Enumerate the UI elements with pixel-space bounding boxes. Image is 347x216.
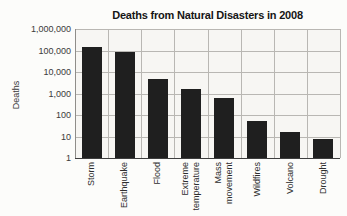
gridline-vertical [174,29,175,158]
y-tick-label-1: 1 [0,153,71,163]
y-tick-label-100-000: 100,000 [0,46,71,56]
gridline-vertical [241,29,242,158]
x-tick-label-flood: Flood [152,162,163,185]
y-tick-label-10-000: 10,000 [0,67,71,77]
gridline-vertical [307,29,308,158]
bar-extreme-temperature [181,89,201,158]
bar-drought [313,139,333,158]
y-axis-line [75,29,76,158]
x-tick-label-drought: Drought [318,162,329,194]
gridline-vertical [108,29,109,158]
bar-storm [82,47,102,158]
gridline-vertical [208,29,209,158]
gridline-vertical [274,29,275,158]
x-tick-label-extreme-temperature: Extreme temperature [180,162,202,211]
gridline-vertical [141,29,142,158]
bar-earthquake [115,52,135,158]
x-axis-line [75,158,340,159]
chart: Deaths from Natural Disasters in 2008 De… [0,0,347,216]
x-tick-label-earthquake: Earthquake [119,162,130,208]
y-tick-label-1-000: 1,000 [0,89,71,99]
x-tick-label-wildfires: Wildfires [252,162,263,197]
x-tick-label-mass-movement: Mass movement [213,162,235,204]
bar-mass-movement [214,98,234,158]
gridline-vertical [340,29,341,158]
y-tick-label-1-000-000: 1,000,000 [0,24,71,34]
y-tick-label-100: 100 [0,110,71,120]
chart-title: Deaths from Natural Disasters in 2008 [75,9,340,21]
bar-flood [148,79,168,158]
x-tick-label-volcano: Volcano [285,162,296,194]
x-tick-label-storm: Storm [86,162,97,186]
bar-volcano [280,132,300,158]
bar-wildfires [247,121,267,158]
plot-area [75,29,340,158]
y-tick-label-10: 10 [0,132,71,142]
